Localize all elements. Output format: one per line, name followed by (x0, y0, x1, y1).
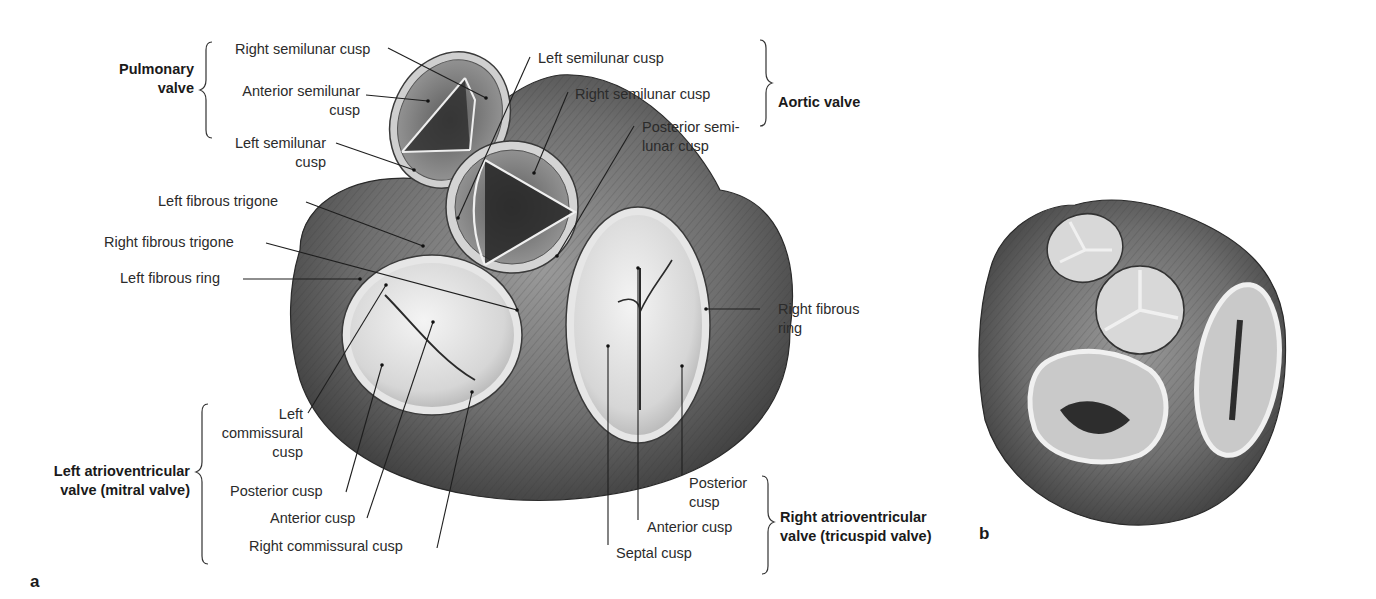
group-label-line: valve (100, 79, 194, 98)
group-label-line: valve (tricuspid valve) (780, 527, 932, 546)
panel-label-b: b (979, 524, 989, 544)
label-mitral-anterior-cusp: Anterior cusp (270, 509, 355, 528)
label-aortic-right-semilunar-cusp: Right semilunar cusp (575, 85, 710, 104)
mitral-valve-drawing (342, 255, 522, 415)
group-label-pulmonary-valve: Pulmonary valve (100, 60, 194, 98)
group-label-line: Right atrioventricular (780, 508, 932, 527)
label-line: lunar cusp (642, 137, 740, 156)
label-right-fibrous-ring: Right fibrous ring (778, 300, 859, 338)
label-line: cusp (200, 443, 303, 462)
label-line: cusp (218, 153, 326, 172)
label-pulmonary-left-semilunar-cusp: Left semilunar cusp (218, 134, 326, 172)
label-line: cusp (224, 101, 360, 120)
label-line: Left semilunar (218, 134, 326, 153)
label-line: commissural (200, 424, 303, 443)
label-tricuspid-anterior-cusp: Anterior cusp (647, 518, 732, 537)
panel-b-heart (979, 200, 1290, 525)
label-mitral-left-commissural-cusp: Left commissural cusp (200, 405, 303, 462)
label-pulmonary-right-semilunar-cusp: Right semilunar cusp (235, 40, 370, 59)
group-label-line: Left atrioventricular (20, 462, 190, 481)
group-label-aortic-valve: Aortic valve (778, 93, 860, 112)
label-aortic-posterior-semilunar-cusp: Posterior semi- lunar cusp (642, 118, 740, 156)
label-line: Right fibrous (778, 300, 859, 319)
label-left-fibrous-ring: Left fibrous ring (120, 269, 220, 288)
label-line: Posterior (689, 474, 747, 493)
label-line: Posterior semi- (642, 118, 740, 137)
group-label-tricuspid-valve: Right atrioventricular valve (tricuspid … (780, 508, 932, 546)
label-aortic-left-semilunar-cusp: Left semilunar cusp (538, 49, 664, 68)
panel-label-a: a (30, 572, 39, 592)
label-tricuspid-posterior-cusp: Posterior cusp (689, 474, 747, 512)
label-line: cusp (689, 493, 747, 512)
label-line: Anterior semilunar (224, 82, 360, 101)
label-mitral-right-commissural-cusp: Right commissural cusp (249, 537, 403, 556)
label-line: Left (200, 405, 303, 424)
group-label-line: valve (mitral valve) (20, 481, 190, 500)
group-label-mitral-valve: Left atrioventricular valve (mitral valv… (20, 462, 190, 500)
label-pulmonary-anterior-semilunar-cusp: Anterior semilunar cusp (224, 82, 360, 120)
label-mitral-posterior-cusp: Posterior cusp (230, 482, 323, 501)
label-right-fibrous-trigone: Right fibrous trigone (104, 233, 234, 252)
label-line: ring (778, 319, 859, 338)
label-left-fibrous-trigone: Left fibrous trigone (158, 192, 278, 211)
label-tricuspid-septal-cusp: Septal cusp (616, 544, 692, 563)
group-label-line: Pulmonary (100, 60, 194, 79)
